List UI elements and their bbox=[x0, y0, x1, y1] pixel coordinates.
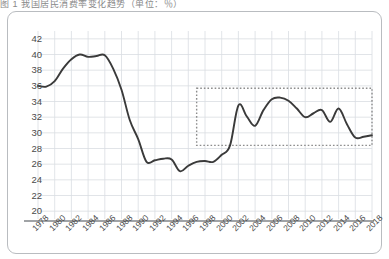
x-tick-label: 2012 bbox=[314, 213, 334, 233]
x-tick-label: 1990 bbox=[130, 213, 150, 233]
chart-card: 424038363432302826242220 197819801982198… bbox=[7, 11, 382, 254]
x-tick-label: 1992 bbox=[147, 213, 167, 233]
x-tick-label: 2008 bbox=[281, 213, 301, 233]
x-tick-label: 1998 bbox=[197, 213, 217, 233]
x-tick-label: 2006 bbox=[264, 213, 284, 233]
x-tick-label: 1994 bbox=[164, 213, 184, 233]
figure-caption: 图 1 我国居民消费率变化趋势（单位：％） bbox=[0, 0, 389, 10]
x-tick-label: 2016 bbox=[347, 213, 367, 233]
x-tick-label: 1982 bbox=[63, 213, 83, 233]
x-tick-label: 1988 bbox=[114, 213, 134, 233]
x-tick-label: 1986 bbox=[97, 213, 117, 233]
x-tick-label: 2000 bbox=[214, 213, 234, 233]
x-tick-label: 2010 bbox=[297, 213, 317, 233]
x-axis-tick-labels: 1978198019821984198619881990199219941996… bbox=[8, 12, 383, 255]
x-tick-label: 2014 bbox=[331, 213, 351, 233]
x-tick-label: 1996 bbox=[180, 213, 200, 233]
x-tick-label: 1984 bbox=[80, 213, 100, 233]
x-tick-label: 2004 bbox=[247, 213, 267, 233]
x-tick-label: 1978 bbox=[30, 213, 50, 233]
x-tick-label: 2002 bbox=[230, 213, 250, 233]
x-tick-label: 2018 bbox=[364, 213, 384, 233]
chart-plot-area: 424038363432302826242220 197819801982198… bbox=[8, 12, 383, 255]
x-tick-label: 1980 bbox=[47, 213, 67, 233]
